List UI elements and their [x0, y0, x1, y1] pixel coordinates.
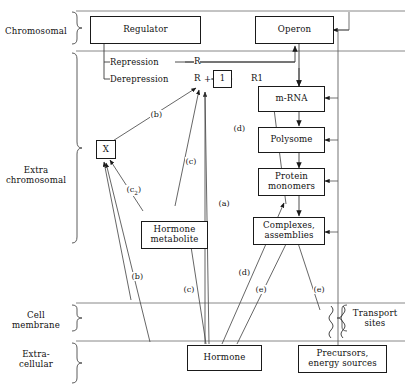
- node-hormone-label: Hormone: [204, 353, 246, 363]
- edge-repression-bus: [175, 62, 295, 79]
- compartment-label-chromosomal: Chromosomal: [2, 26, 70, 36]
- flow-label-repression: Repression: [110, 57, 159, 67]
- edge-label-e-right: (e): [313, 285, 325, 294]
- edge-label-b-lower: (b): [131, 272, 144, 281]
- node-protein-line2: monomers: [268, 182, 315, 192]
- node-x-label: X: [103, 145, 109, 155]
- edge-label-e-left: (e): [255, 285, 267, 294]
- transport-line1: Transport: [349, 308, 401, 318]
- node-polysome-label: Polysome: [270, 135, 312, 145]
- extrachromosomal-line2: chromosomal: [0, 175, 72, 185]
- compartment-braces: [72, 12, 347, 383]
- edges-feedback-arrows: [325, 30, 349, 232]
- node-complexes-assemblies[interactable]: Complexes, assemblies: [253, 217, 325, 245]
- edge-label-c-upper: (c): [185, 157, 197, 166]
- edge-label-d-lower: (d): [238, 268, 251, 277]
- node-mrna[interactable]: m-RNA: [258, 86, 325, 112]
- symbol-r-repression: R: [194, 56, 200, 66]
- node-operon-label: Operon: [278, 25, 311, 35]
- edge-label-a: (a): [218, 199, 230, 208]
- node-precursors[interactable]: Precursors, energy sources: [298, 345, 387, 373]
- extrachromosomal-line1: Extra: [0, 165, 72, 175]
- edge-label-d-upper: (d): [233, 124, 246, 133]
- node-one-label: 1: [220, 74, 225, 83]
- extracellular-line2: cellular: [2, 359, 70, 369]
- node-protein-monomers[interactable]: Protein monomers: [258, 168, 325, 196]
- compartment-label-cellmembrane: Cell membrane: [2, 310, 70, 331]
- edge-label-c2: (c2): [126, 185, 142, 196]
- node-x[interactable]: X: [96, 140, 116, 159]
- node-regulator[interactable]: Regulator: [90, 16, 201, 44]
- node-polysome[interactable]: Polysome: [258, 127, 325, 153]
- symbol-r-derepression: R: [194, 73, 200, 83]
- node-mrna-label: m-RNA: [276, 94, 308, 104]
- node-metabolite-line2: metabolite: [150, 235, 198, 245]
- node-complexes-line2: assemblies: [264, 231, 313, 241]
- chromosomal-text: Chromosomal: [2, 26, 70, 36]
- cellmembrane-line2: membrane: [2, 320, 70, 330]
- membrane-squiggles: [329, 306, 345, 338]
- label-transport-sites: Transport sites: [349, 308, 401, 329]
- compartment-label-extracellular: Extra- cellular: [2, 349, 70, 370]
- node-operon[interactable]: Operon: [255, 16, 334, 44]
- symbol-plus: +: [204, 74, 211, 84]
- diagram-vector-layer: [0, 0, 405, 389]
- diagram-canvas: Regulator Operon 1 m-RNA Polysome Protei…: [0, 0, 405, 389]
- node-precursors-line2: energy sources: [308, 359, 377, 369]
- extracellular-line1: Extra-: [2, 349, 70, 359]
- transport-line2: sites: [349, 318, 401, 328]
- symbol-r1: R1: [251, 73, 263, 83]
- edge-label-c-lower: (c): [183, 285, 195, 294]
- flow-label-derepression: Derepression: [110, 74, 168, 84]
- cellmembrane-line1: Cell: [2, 310, 70, 320]
- c2-close: ): [138, 185, 141, 194]
- edge-label-b-upper: (b): [150, 110, 163, 119]
- node-hormone[interactable]: Hormone: [187, 345, 262, 371]
- node-hormone-metabolite[interactable]: Hormone metabolite: [141, 221, 208, 249]
- edge-precursors-supply: [338, 12, 349, 345]
- node-one[interactable]: 1: [213, 70, 232, 88]
- node-regulator-label: Regulator: [123, 25, 168, 35]
- edges-feedback-bus: [338, 30, 349, 283]
- compartment-label-extrachromosomal: Extra chromosomal: [0, 165, 72, 186]
